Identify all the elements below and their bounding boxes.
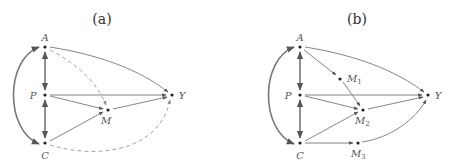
node-m2 [361,108,364,111]
label-c: C [41,150,49,161]
node-m [106,108,109,111]
edge-m2-y [368,97,423,109]
panel-b: (b) A P C M1 M2 M3 Y [269,11,443,161]
edge-p-m2 [305,96,358,109]
node-c [43,141,46,144]
edge-a-m-dashed [50,50,106,105]
edge-m-y [113,97,167,109]
label-m3: M3 [350,148,366,161]
label-p: P [29,90,37,101]
edge-m3-y [362,100,426,142]
edge-a-y [305,47,424,92]
node-m3 [356,141,359,144]
label-m1: M1 [346,73,362,86]
panel-a: (a) A P C M Y [14,11,187,161]
label-y: Y [435,90,443,101]
node-p [298,93,301,96]
edge-c-m [50,112,103,141]
label-y: Y [179,90,187,101]
panel-b-title: (b) [347,11,367,27]
edge-p-m [50,96,103,109]
edge-c-m2 [305,112,358,141]
node-a [43,45,46,48]
node-y [170,93,173,96]
label-m: M [100,115,112,126]
node-m1 [338,77,341,80]
label-a: A [295,32,303,43]
node-p [43,93,46,96]
edge-a-y [50,47,168,92]
label-p: P [284,90,292,101]
label-c: C [296,150,304,161]
label-m2: M2 [354,115,370,128]
node-c [298,141,301,144]
node-a [298,45,301,48]
node-y [426,93,429,96]
causal-diagrams: (a) A P C M Y (b) [0,0,450,168]
edge-a-m1 [304,50,336,75]
panel-a-title: (a) [92,11,111,27]
label-a: A [40,32,48,43]
